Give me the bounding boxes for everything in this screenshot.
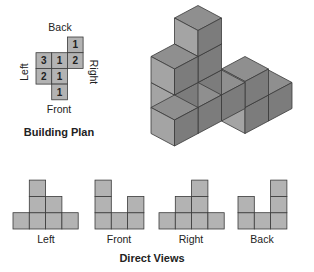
isometric-building — [151, 6, 292, 147]
view-cell — [192, 196, 208, 212]
plan-cell-count: 2 — [72, 55, 78, 66]
diagram-canvas: 1312211 Back Front Left Right Building P… — [0, 0, 314, 272]
view-cell — [29, 213, 45, 229]
plan-label-right: Right — [88, 60, 100, 85]
plan-label-front: Front — [47, 103, 72, 115]
direct-views — [13, 180, 287, 229]
view-cell — [128, 196, 144, 212]
view-cell — [271, 180, 287, 196]
view-cell — [208, 213, 224, 229]
view-label-right: Right — [179, 233, 204, 245]
view-cell — [238, 213, 254, 229]
view-label-left: Left — [37, 233, 55, 245]
plan-cell-count: 1 — [72, 39, 78, 50]
plan-label-left: Left — [18, 63, 30, 81]
view-cell — [62, 213, 78, 229]
building-plan: 1312211 — [36, 37, 83, 100]
view-cell — [46, 196, 62, 212]
plan-label-back: Back — [48, 21, 72, 33]
view-cell — [271, 196, 287, 212]
view-cell — [29, 180, 45, 196]
view-cell — [175, 196, 191, 212]
plan-cell-count: 1 — [57, 55, 63, 66]
view-cell — [254, 213, 270, 229]
view-cell — [192, 213, 208, 229]
view-cell — [271, 213, 287, 229]
view-cell — [95, 196, 111, 212]
view-cell — [159, 213, 175, 229]
view-cell — [13, 213, 29, 229]
view-cell — [46, 213, 62, 229]
plan-title: Building Plan — [24, 126, 95, 138]
view-cell — [238, 196, 254, 212]
plan-cell-count: 1 — [57, 71, 63, 82]
view-cell — [111, 213, 127, 229]
view-label-front: Front — [107, 233, 132, 245]
view-cell — [175, 213, 191, 229]
plan-cell-count: 3 — [41, 55, 47, 66]
views-title: Direct Views — [119, 252, 184, 264]
view-cell — [95, 213, 111, 229]
view-cell — [192, 180, 208, 196]
view-cell — [29, 196, 45, 212]
plan-cell-count: 1 — [57, 87, 63, 98]
view-cell — [95, 180, 111, 196]
plan-cell-count: 2 — [41, 71, 47, 82]
view-cell — [128, 213, 144, 229]
view-label-back: Back — [250, 233, 274, 245]
